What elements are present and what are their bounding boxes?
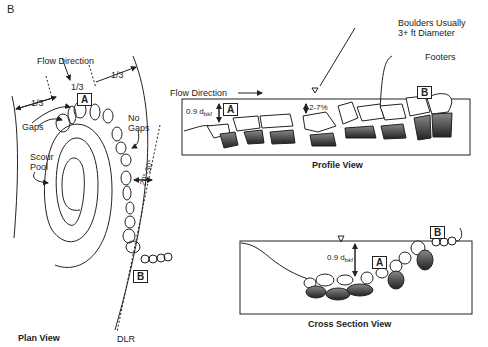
cross-label-a: A <box>372 256 387 269</box>
plan-view-title: Plan View <box>18 333 60 343</box>
diagram-graphics <box>0 0 488 347</box>
plan-label-b: B <box>133 270 148 283</box>
profile-depth-value: 0.9 d <box>186 107 204 116</box>
profile-label-a: A <box>223 103 238 116</box>
plan-flow-direction: Flow Direction <box>37 56 94 66</box>
rock-vane-diagram: B Flow Direction 1/3 1/3 1/3 A Gaps No G… <box>0 0 488 347</box>
scour-pool-label: Scour Pool <box>30 152 58 172</box>
boulders-label-2: 3+ ft Diameter <box>398 28 455 38</box>
third-left: 1/3 <box>31 98 44 108</box>
cross-depth-value: 0.9 d <box>327 253 345 262</box>
no-gaps-label: No Gaps <box>128 113 158 133</box>
profile-label-b: B <box>417 86 432 99</box>
plan-label-a: A <box>77 93 92 106</box>
third-right: 1/3 <box>111 70 124 80</box>
figure-label: B <box>7 4 14 14</box>
cross-depth-sub: bkf <box>345 257 353 263</box>
profile-depth: 0.9 dbkf <box>186 107 212 119</box>
profile-depth-sub: bkf <box>204 111 212 117</box>
profile-view-title: Profile View <box>312 160 363 170</box>
profile-flow-direction: Flow Direction <box>170 88 227 98</box>
slope-label: 2-7% <box>309 103 328 113</box>
third-mid: 1/3 <box>71 82 84 92</box>
cross-depth: 0.9 dbkf <box>327 253 353 265</box>
gaps-label: Gaps <box>22 122 44 132</box>
dlr-label: DLR <box>117 334 135 344</box>
cross-section-title: Cross Section View <box>308 319 391 329</box>
footers-label: Footers <box>425 52 456 62</box>
cross-label-b: B <box>430 226 445 239</box>
boulders-label: Boulders Usually <box>398 18 466 28</box>
